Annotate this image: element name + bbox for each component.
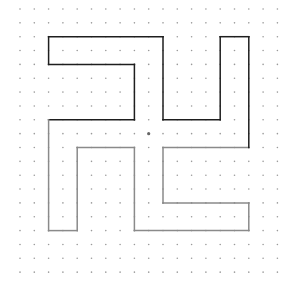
grid-dot <box>48 105 50 107</box>
grid-dot <box>277 105 279 107</box>
grid-dot <box>262 64 264 66</box>
grid-dot <box>62 188 64 190</box>
grid-dot <box>277 258 279 260</box>
grid-dot <box>19 133 21 135</box>
grid-dot <box>19 8 21 10</box>
grid-dot <box>119 244 121 246</box>
grid-dot <box>177 174 179 176</box>
grid-dot <box>177 258 179 260</box>
grid-dot <box>177 22 179 24</box>
grid-dot <box>19 119 21 121</box>
grid-dot <box>248 161 250 163</box>
grid-dot <box>134 258 136 260</box>
grid-dot <box>62 174 64 176</box>
grid-dot <box>177 8 179 10</box>
grid-dot <box>76 8 78 10</box>
grid-dot <box>34 50 36 52</box>
grid-dot <box>105 8 107 10</box>
grid-dot <box>119 188 121 190</box>
grid-dot <box>205 36 207 38</box>
grid-dot <box>134 50 136 52</box>
grid-dot <box>62 271 64 273</box>
grid-dot <box>205 271 207 273</box>
grid-dot <box>219 188 221 190</box>
grid-dot <box>191 188 193 190</box>
grid-dot <box>205 50 207 52</box>
grid-dot <box>134 271 136 273</box>
grid-dot <box>134 22 136 24</box>
grid-dot <box>234 105 236 107</box>
grid-dot <box>119 271 121 273</box>
grid-dot <box>34 105 36 107</box>
grid-dot <box>62 50 64 52</box>
grid-dot <box>262 91 264 93</box>
grid-dot <box>162 133 164 135</box>
grid-dot <box>62 202 64 204</box>
grid-dot <box>191 8 193 10</box>
grid-dot <box>234 50 236 52</box>
grid-dot <box>119 216 121 218</box>
grid-dot <box>277 119 279 121</box>
grid-dot <box>234 271 236 273</box>
grid-dot <box>91 91 93 93</box>
grid-dot <box>219 258 221 260</box>
grid-dot <box>205 77 207 79</box>
grid-dot <box>34 8 36 10</box>
grid-dot <box>48 77 50 79</box>
grid-dot <box>119 8 121 10</box>
grid-dot <box>234 244 236 246</box>
grid-dot <box>76 22 78 24</box>
grid-dot <box>62 133 64 135</box>
grid-dot <box>105 50 107 52</box>
grid-dot <box>48 271 50 273</box>
grid-dot <box>34 258 36 260</box>
grid-dot <box>62 8 64 10</box>
grid-dot <box>248 271 250 273</box>
grid-dot <box>105 258 107 260</box>
grid-dot <box>148 105 150 107</box>
grid-dot <box>234 77 236 79</box>
grid-dot <box>34 188 36 190</box>
grid-dot <box>34 271 36 273</box>
grid-dot <box>148 22 150 24</box>
grid-dot <box>34 161 36 163</box>
grid-dot <box>119 174 121 176</box>
grid-dot <box>205 105 207 107</box>
grid-dot <box>19 216 21 218</box>
grid-dot <box>148 161 150 163</box>
grid-dot <box>148 271 150 273</box>
grid-dot <box>277 8 279 10</box>
grid-dot <box>262 258 264 260</box>
grid-dot <box>134 133 136 135</box>
grid-dot <box>277 161 279 163</box>
grid-dot <box>248 244 250 246</box>
grid-dot <box>248 8 250 10</box>
grid-dot <box>62 91 64 93</box>
grid-dot <box>34 77 36 79</box>
grid-dot <box>62 258 64 260</box>
grid-dot <box>277 77 279 79</box>
grid-dot <box>277 147 279 149</box>
grid-dot <box>177 244 179 246</box>
grid-dot <box>177 36 179 38</box>
grid-dot <box>62 105 64 107</box>
grid-dot <box>34 147 36 149</box>
grid-dot <box>134 244 136 246</box>
grid-dot <box>219 244 221 246</box>
grid-dot <box>76 133 78 135</box>
grid-dot <box>62 147 64 149</box>
grid-dot <box>205 8 207 10</box>
grid-dot <box>19 244 21 246</box>
grid-dot <box>148 216 150 218</box>
grid-dot <box>119 77 121 79</box>
grid-dot <box>91 161 93 163</box>
grid-dot <box>262 244 264 246</box>
grid-dot <box>76 105 78 107</box>
grid-dot <box>148 188 150 190</box>
grid-dot <box>248 174 250 176</box>
grid-dot <box>234 64 236 66</box>
grid-dot <box>62 244 64 246</box>
grid-dot <box>191 258 193 260</box>
grid-dot <box>205 258 207 260</box>
grid-dot <box>91 77 93 79</box>
